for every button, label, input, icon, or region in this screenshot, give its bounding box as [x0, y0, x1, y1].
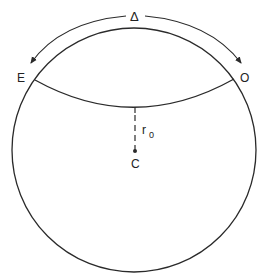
- delta-label: Δ: [130, 9, 139, 24]
- radius-label: r: [142, 123, 146, 137]
- diagram-svg: Δ E O r 0 C: [0, 0, 269, 278]
- chord-arc: [35, 79, 234, 107]
- diagram-canvas: Δ E O r 0 C: [0, 0, 269, 278]
- center-label: C: [131, 157, 140, 171]
- delta-arc-left-arrow: [31, 16, 126, 63]
- center-point: [133, 149, 137, 153]
- west-label: O: [240, 71, 249, 85]
- radius-subscript: 0: [149, 130, 154, 140]
- east-label: E: [17, 71, 25, 85]
- delta-arc-right-arrow: [145, 16, 241, 63]
